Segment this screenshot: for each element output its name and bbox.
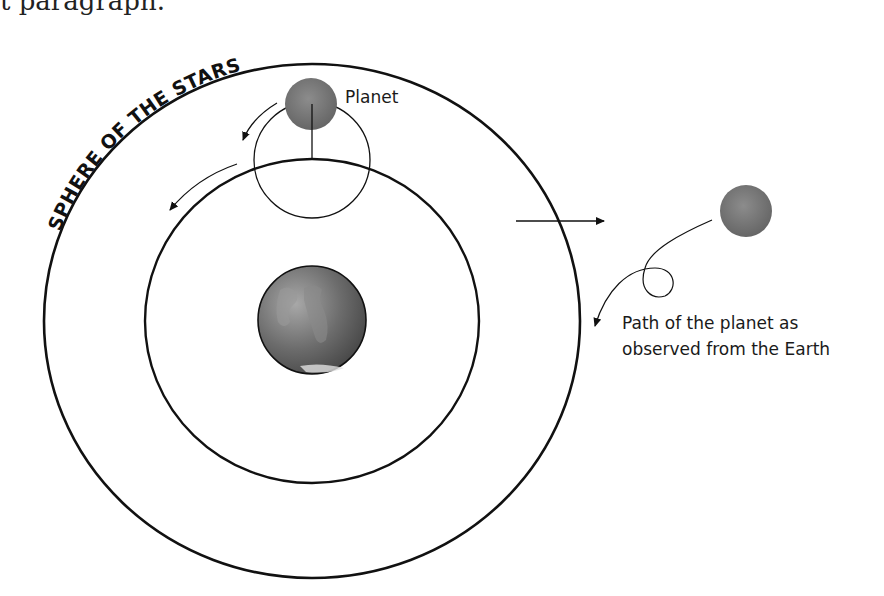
sphere-of-stars-label: SPHERE OF THE STARS bbox=[43, 53, 243, 233]
geocentric-diagram: SPHERE OF THE STARS bbox=[0, 0, 884, 596]
diagram-stage: t paragraph. bbox=[0, 0, 884, 596]
observed-path-label: Path of the planet as observed from the … bbox=[622, 310, 830, 362]
observed-path-label-line1: Path of the planet as bbox=[622, 310, 830, 336]
cut-off-paragraph-text: t paragraph. bbox=[0, 0, 165, 16]
observed-planet bbox=[720, 185, 772, 237]
deferent-direction-arrow bbox=[170, 164, 237, 210]
earth-icon bbox=[258, 266, 366, 374]
planet-on-epicycle bbox=[285, 78, 337, 130]
planet-label: Planet bbox=[345, 87, 398, 107]
observed-path-label-line2: observed from the Earth bbox=[622, 336, 830, 362]
